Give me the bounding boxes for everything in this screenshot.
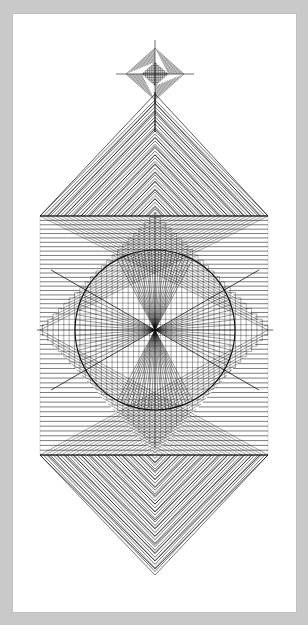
string-art-composition xyxy=(0,0,308,625)
artwork-frame: String Art Geometric Composition xyxy=(0,0,308,625)
radial-fan-burst xyxy=(51,250,259,410)
top-finial-star xyxy=(116,40,194,104)
top-curved-spike xyxy=(40,94,268,216)
bottom-curved-spike xyxy=(40,455,268,575)
